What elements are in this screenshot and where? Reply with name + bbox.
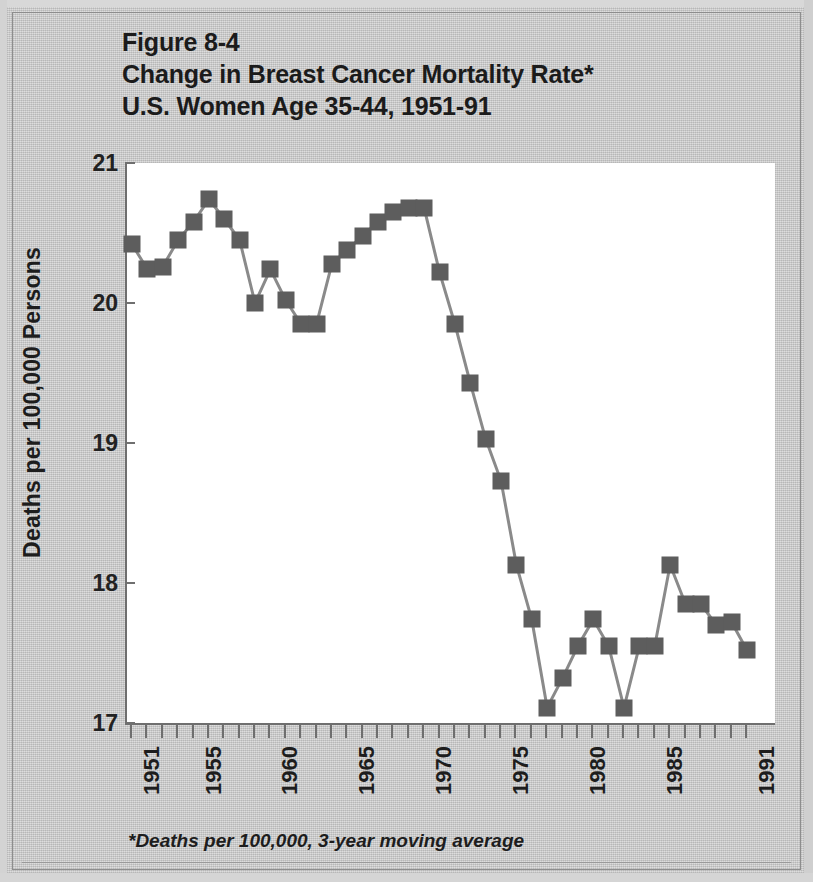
data-point-marker — [539, 699, 556, 716]
x-tick-label: 1955 — [201, 746, 227, 795]
data-point-marker — [170, 232, 187, 249]
x-tick-mark — [699, 725, 701, 738]
page-edge-left — [0, 0, 7, 882]
x-tick-mark — [607, 725, 609, 738]
x-tick-mark — [530, 725, 532, 738]
x-tick-mark — [545, 725, 547, 738]
data-point-marker — [569, 638, 586, 655]
data-point-marker — [692, 596, 709, 613]
x-tick-label: 1980 — [585, 746, 611, 795]
series-polyline — [127, 163, 775, 723]
data-point-marker — [124, 236, 141, 253]
page-edge-right — [804, 0, 813, 882]
data-point-marker — [185, 213, 202, 230]
x-tick-mark — [268, 725, 270, 738]
data-point-marker — [446, 316, 463, 333]
y-axis-tick-labels: 1718192021 — [78, 163, 118, 723]
data-point-marker — [554, 670, 571, 687]
data-point-marker — [493, 472, 510, 489]
figure-title-block: Figure 8-4 Change in Breast Cancer Morta… — [122, 26, 782, 122]
data-point-marker — [585, 611, 602, 628]
x-tick-mark — [361, 725, 363, 738]
x-tick-label: 1970 — [431, 746, 457, 795]
x-tick-mark — [422, 725, 424, 738]
y-tick-mark — [125, 162, 135, 164]
x-tick-label: 1951 — [139, 746, 165, 795]
x-tick-mark — [222, 725, 224, 738]
x-tick-label: 1985 — [662, 746, 688, 795]
x-tick-label: 1965 — [354, 746, 380, 795]
data-point-marker — [277, 292, 294, 309]
y-tick-label: 21 — [92, 150, 118, 177]
x-tick-mark — [438, 725, 440, 738]
y-tick-label: 18 — [92, 570, 118, 597]
data-point-marker — [600, 638, 617, 655]
data-point-marker — [416, 199, 433, 216]
x-tick-mark — [192, 725, 194, 738]
data-point-marker — [262, 261, 279, 278]
page-edge-bottom — [0, 873, 813, 882]
x-tick-mark — [499, 725, 501, 738]
data-point-marker — [662, 556, 679, 573]
y-tick-label: 19 — [92, 430, 118, 457]
figure-container: Figure 8-4 Change in Breast Cancer Morta… — [0, 0, 813, 882]
page-edge-top — [0, 0, 813, 7]
x-tick-mark — [561, 725, 563, 738]
x-tick-mark — [130, 725, 132, 738]
x-tick-mark — [468, 725, 470, 738]
x-tick-mark — [330, 725, 332, 738]
x-tick-mark — [207, 725, 209, 738]
x-tick-mark — [484, 725, 486, 738]
x-tick-mark — [284, 725, 286, 738]
y-axis-label: Deaths per 100,000 Persons — [19, 143, 46, 663]
x-tick-mark — [576, 725, 578, 738]
y-tick-label: 20 — [92, 290, 118, 317]
data-point-marker — [247, 295, 264, 312]
plot-inner — [127, 163, 775, 723]
figure-title-line-3: U.S. Women Age 35-44, 1951-91 — [122, 90, 782, 122]
data-point-marker — [231, 232, 248, 249]
y-tick-label: 17 — [92, 710, 118, 737]
x-tick-mark — [299, 725, 301, 738]
x-tick-mark — [637, 725, 639, 738]
figure-title-line-2: Change in Breast Cancer Mortality Rate* — [122, 58, 782, 90]
data-point-marker — [431, 264, 448, 281]
x-tick-mark — [714, 725, 716, 738]
x-tick-mark — [668, 725, 670, 738]
footnote-rule — [22, 862, 791, 863]
x-tick-mark — [391, 725, 393, 738]
data-point-marker — [216, 211, 233, 228]
y-tick-mark — [125, 582, 135, 584]
data-point-marker — [739, 642, 756, 659]
x-tick-mark — [730, 725, 732, 738]
x-tick-mark — [253, 725, 255, 738]
x-tick-mark — [591, 725, 593, 738]
x-tick-label: 1960 — [277, 746, 303, 795]
data-point-marker — [616, 699, 633, 716]
figure-number: Figure 8-4 — [122, 26, 782, 58]
x-tick-mark — [407, 725, 409, 738]
x-tick-mark — [653, 725, 655, 738]
x-tick-mark — [376, 725, 378, 738]
x-tick-mark — [514, 725, 516, 738]
x-tick-label: 1975 — [508, 746, 534, 795]
x-tick-label: 1991 — [754, 746, 780, 795]
y-tick-mark — [125, 442, 135, 444]
x-tick-mark — [145, 725, 147, 738]
data-point-marker — [308, 316, 325, 333]
y-tick-mark — [125, 722, 135, 724]
data-point-marker — [646, 638, 663, 655]
x-tick-mark — [745, 725, 747, 738]
x-tick-mark — [161, 725, 163, 738]
x-tick-mark — [345, 725, 347, 738]
x-tick-mark — [622, 725, 624, 738]
data-point-marker — [723, 614, 740, 631]
data-point-marker — [508, 556, 525, 573]
x-tick-mark — [176, 725, 178, 738]
x-tick-mark — [684, 725, 686, 738]
data-point-marker — [523, 611, 540, 628]
data-point-marker — [154, 258, 171, 275]
data-point-marker — [462, 374, 479, 391]
x-tick-mark — [315, 725, 317, 738]
data-point-marker — [200, 191, 217, 208]
